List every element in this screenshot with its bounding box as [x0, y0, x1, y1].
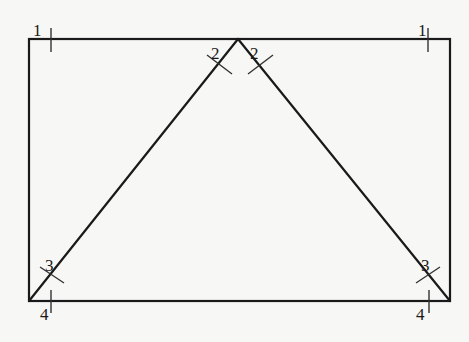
rectangle	[29, 39, 450, 301]
label-angle-3-right: 3	[421, 256, 430, 275]
triangle-right-side	[238, 39, 450, 301]
label-angle-3-left: 3	[45, 256, 54, 275]
label-angle-1-right: 1	[418, 21, 427, 40]
label-angle-2-left: 2	[211, 44, 220, 63]
triangle-left-side	[29, 39, 238, 301]
label-angle-4-right: 4	[416, 305, 425, 324]
label-angle-4-left: 4	[40, 305, 49, 324]
geometry-diagram: 1 1 2 2 3 3 4 4	[0, 0, 469, 342]
label-angle-1-left: 1	[33, 21, 42, 40]
label-angle-2-right: 2	[250, 44, 259, 63]
